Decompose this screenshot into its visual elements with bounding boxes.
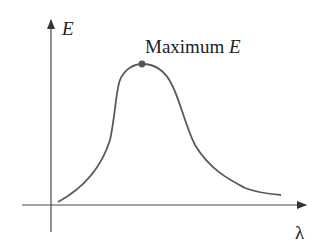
y-axis-label: E [61,18,74,39]
energy-wavelength-diagram: E Maximum E λ [0,0,327,246]
maximum-annotation-text: Maximum [145,36,229,57]
maximum-annotation-var: E [228,36,241,57]
maximum-point-marker [139,61,146,68]
energy-curve [58,64,281,202]
x-axis-label: λ [295,222,305,243]
maximum-annotation: Maximum E [145,36,241,57]
